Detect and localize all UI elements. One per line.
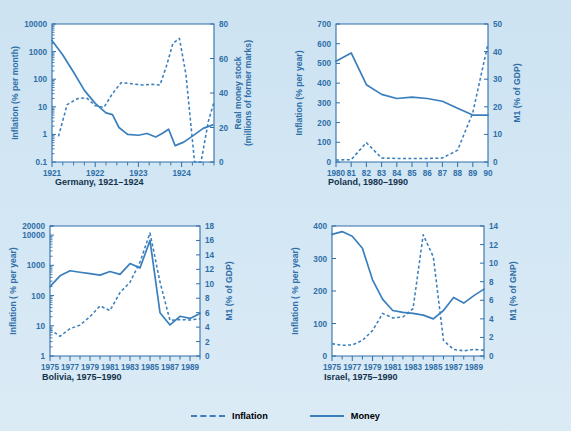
chart-germany: 0.11101001000100000204060801921192219231… bbox=[0, 2, 286, 202]
y-ticklabel-right: 16 bbox=[205, 236, 215, 245]
y-ticklabel-right: 10 bbox=[489, 259, 499, 268]
legend-item-inflation: Inflation bbox=[191, 411, 268, 421]
y-ticklabel-right: 10 bbox=[493, 130, 503, 139]
y-ticklabel-right: 10 bbox=[205, 280, 215, 289]
y-ticklabel-left: 0 bbox=[322, 352, 327, 361]
y-ticklabel-left: 200 bbox=[313, 287, 327, 296]
x-ticklabel: 1983 bbox=[121, 363, 140, 372]
x-ticklabel: 86 bbox=[423, 169, 433, 178]
y-ticklabel-left: 0 bbox=[326, 158, 331, 167]
y-ticklabel-right: 8 bbox=[489, 278, 494, 287]
y-ticklabel-left: 500 bbox=[317, 59, 331, 68]
y-ticklabel-right: 40 bbox=[219, 89, 229, 98]
y-ticklabel-right: 12 bbox=[489, 241, 499, 250]
y-ticklabel-right: 14 bbox=[489, 222, 499, 231]
y-ticklabel-left: 100 bbox=[33, 75, 47, 84]
y-ticklabel-right: 60 bbox=[219, 55, 229, 64]
y-ticklabel-right: 2 bbox=[489, 333, 494, 342]
y-ticklabel-right: 4 bbox=[205, 323, 210, 332]
y-ticklabel-left: 1000 bbox=[27, 261, 46, 270]
panel-caption: Germany, 1921–1924 bbox=[55, 177, 143, 187]
y-ticklabel-left: 600 bbox=[317, 40, 331, 49]
y-ticklabel-right: 8 bbox=[205, 294, 210, 303]
y-ticklabel-left: 700 bbox=[317, 20, 331, 29]
y-ticklabel-right: 0 bbox=[493, 158, 498, 167]
x-ticklabel: 1981 bbox=[384, 363, 403, 372]
x-ticklabel: 1987 bbox=[161, 363, 180, 372]
y-ticklabel-right: 30 bbox=[493, 75, 503, 84]
x-ticklabel: 1979 bbox=[363, 363, 382, 372]
y-ticklabel-left: 10 bbox=[36, 322, 46, 331]
x-ticklabel: 1989 bbox=[465, 363, 484, 372]
chart-poland: 0100200300400500600700010203040501980818… bbox=[286, 2, 571, 202]
y-ticklabel-left: 400 bbox=[313, 222, 327, 231]
y-ticklabel-left: 1 bbox=[42, 130, 47, 139]
y-ticklabel-right: 50 bbox=[493, 20, 503, 29]
x-ticklabel: 1987 bbox=[444, 363, 463, 372]
y-axis-title-right: M1 (% of GNP) bbox=[508, 261, 518, 320]
plot-area bbox=[52, 24, 214, 162]
chart-israel: 0100200300400024681012141975197719791981… bbox=[286, 204, 571, 400]
y-ticklabel-left: 20000 bbox=[22, 222, 45, 231]
legend-label-money: Money bbox=[351, 411, 380, 421]
x-ticklabel: 1977 bbox=[61, 363, 80, 372]
y-ticklabel-left: 100 bbox=[313, 320, 327, 329]
panel-caption: Israel, 1975–1990 bbox=[324, 372, 398, 382]
y-ticklabel-left: 200 bbox=[317, 119, 331, 128]
y-ticklabel-right: 80 bbox=[219, 20, 229, 29]
y-axis-title-left: Inflation ( % per year) bbox=[8, 247, 18, 335]
y-axis-title-left: Inflation ( % per year) bbox=[290, 247, 300, 335]
y-ticklabel-right: 4 bbox=[489, 315, 494, 324]
chart-bolivia: 1101001000100002000002468101214161819751… bbox=[0, 204, 286, 400]
x-ticklabel: 85 bbox=[407, 169, 417, 178]
x-ticklabel: 1975 bbox=[41, 363, 60, 372]
legend-item-money: Money bbox=[310, 411, 380, 421]
plot-area bbox=[336, 24, 488, 162]
x-ticklabel: 88 bbox=[453, 169, 463, 178]
y-axis-title-right: M1 (% of GDP) bbox=[512, 63, 522, 122]
y-ticklabel-left: 100 bbox=[31, 292, 45, 301]
x-ticklabel: 1977 bbox=[343, 363, 362, 372]
figure-panel-grid: 0.11101001000100000204060801921192219231… bbox=[0, 0, 571, 431]
x-ticklabel: 1975 bbox=[323, 363, 342, 372]
panel-caption: Poland, 1980–1990 bbox=[328, 177, 408, 187]
plot-area bbox=[332, 226, 484, 356]
x-ticklabel: 1985 bbox=[424, 363, 443, 372]
x-ticklabel: 87 bbox=[438, 169, 448, 178]
y-ticklabel-left: 1 bbox=[40, 352, 45, 361]
y-ticklabel-right: 14 bbox=[205, 251, 215, 260]
x-ticklabel: 90 bbox=[483, 169, 493, 178]
panel-caption: Bolivia, 1975–1990 bbox=[42, 372, 122, 382]
y-ticklabel-left: 10000 bbox=[24, 20, 47, 29]
y-axis-title-left: Inflation (% per year) bbox=[294, 50, 304, 135]
y-ticklabel-right: 0 bbox=[219, 158, 224, 167]
legend-label-inflation: Inflation bbox=[232, 411, 268, 421]
y-ticklabel-right: 0 bbox=[489, 352, 494, 361]
y-axis-title-right-line1: Real money stock bbox=[233, 56, 243, 129]
y-ticklabel-left: 300 bbox=[317, 99, 331, 108]
y-ticklabel-right: 20 bbox=[219, 124, 229, 133]
x-ticklabel: 1983 bbox=[404, 363, 423, 372]
y-ticklabel-left: 300 bbox=[313, 255, 327, 264]
solid-line-swatch-icon bbox=[310, 415, 344, 417]
y-ticklabel-left: 10000 bbox=[22, 231, 45, 240]
y-ticklabel-left: 10 bbox=[38, 103, 48, 112]
y-ticklabel-left: 400 bbox=[317, 79, 331, 88]
y-ticklabel-right: 0 bbox=[205, 352, 210, 361]
x-ticklabel: 1985 bbox=[141, 363, 160, 372]
y-ticklabel-right: 6 bbox=[489, 296, 494, 305]
x-ticklabel: 1989 bbox=[181, 363, 200, 372]
figure-legend: Inflation Money bbox=[0, 411, 571, 421]
y-ticklabel-right: 12 bbox=[205, 265, 215, 274]
y-ticklabel-left: 100 bbox=[317, 138, 331, 147]
y-axis-title-right: M1 (% of GDP) bbox=[224, 261, 234, 320]
dashed-line-swatch-icon bbox=[191, 415, 225, 417]
x-ticklabel: 1981 bbox=[101, 363, 120, 372]
x-ticklabel: 1979 bbox=[81, 363, 100, 372]
y-ticklabel-right: 6 bbox=[205, 309, 210, 318]
y-axis-title-right-line2: (millions of former marks) bbox=[243, 40, 253, 146]
y-ticklabel-right: 2 bbox=[205, 338, 210, 347]
y-ticklabel-right: 40 bbox=[493, 48, 503, 57]
plot-area bbox=[50, 226, 200, 356]
y-ticklabel-left: 0.1 bbox=[36, 158, 48, 167]
